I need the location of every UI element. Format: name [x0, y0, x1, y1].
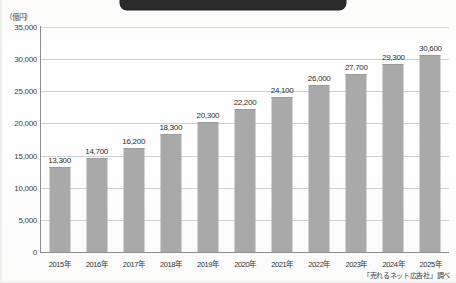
bar-value-label: 29,300 — [382, 53, 405, 62]
bar-value-label: 16,200 — [122, 137, 145, 146]
bar-group: 16,2002017年 — [115, 27, 152, 252]
bar-value-label: 20,300 — [197, 111, 220, 120]
bar[interactable] — [234, 109, 255, 252]
bar[interactable] — [272, 97, 293, 252]
y-axis-tick-label: 25,000 — [14, 87, 37, 96]
bar-group: 20,3002019年 — [189, 27, 226, 252]
x-axis-tick-label: 2023年 — [345, 258, 367, 269]
x-axis-tick-label: 2015年 — [49, 258, 71, 269]
bar-value-label: 22,200 — [234, 98, 257, 107]
bar-value-label: 26,000 — [308, 74, 331, 83]
bar-group: 27,7002023年 — [338, 27, 375, 252]
y-axis-tick-label: 30,000 — [14, 55, 37, 64]
source-note: 「売れるネット広告社」調べ — [363, 270, 450, 280]
gridline — [41, 252, 449, 253]
x-axis-tick-label: 2025年 — [420, 258, 442, 269]
bar-group: 22,2002020年 — [226, 27, 263, 252]
y-axis-tick-labels: 05,00010,00015,00020,00025,00030,00035,0… — [0, 0, 37, 283]
bar-group: 18,3002018年 — [152, 27, 189, 252]
y-axis-tick-label: 0 — [33, 248, 37, 257]
y-axis-tick-label: 20,000 — [14, 119, 37, 128]
y-axis-tick-label: 15,000 — [14, 151, 37, 160]
x-axis-tick-label: 2020年 — [234, 258, 256, 269]
bar-group: 30,6002025年 — [412, 27, 449, 252]
bar[interactable] — [197, 122, 218, 253]
bar-value-label: 27,700 — [345, 63, 368, 72]
bar[interactable] — [86, 158, 107, 253]
bar[interactable] — [420, 55, 441, 252]
bar-group: 29,3002024年 — [375, 27, 412, 252]
bar-group: 13,3002015年 — [41, 27, 78, 252]
x-axis-tick-label: 2019年 — [197, 258, 219, 269]
plot-area: 13,3002015年14,7002016年16,2002017年18,3002… — [41, 27, 449, 252]
y-axis-tick-label: 35,000 — [14, 23, 37, 32]
y-axis-tick-label: 10,000 — [14, 183, 37, 192]
x-axis-tick-label: 2024年 — [383, 258, 405, 269]
bar[interactable] — [383, 64, 404, 252]
bar[interactable] — [309, 85, 330, 252]
x-axis-tick-label: 2018年 — [160, 258, 182, 269]
bar-value-label: 24,100 — [271, 86, 294, 95]
bar-value-label: 18,300 — [159, 123, 182, 132]
bar[interactable] — [123, 148, 144, 252]
bar-value-label: 30,600 — [419, 44, 442, 53]
bar-value-label: 13,300 — [48, 156, 71, 165]
y-axis-tick-label: 5,000 — [18, 215, 37, 224]
bar-group: 24,1002021年 — [264, 27, 301, 252]
chart-screenshot: （億円） 05,00010,00015,00020,00025,00030,00… — [0, 0, 456, 283]
bar[interactable] — [49, 167, 70, 253]
bar[interactable] — [160, 134, 181, 252]
title-banner — [120, 0, 346, 10]
bar-value-label: 14,700 — [85, 147, 108, 156]
x-axis-tick-label: 2022年 — [308, 258, 330, 269]
x-axis-tick-label: 2016年 — [86, 258, 108, 269]
x-axis-tick-label: 2017年 — [123, 258, 145, 269]
bar-group: 14,7002016年 — [78, 27, 115, 252]
x-axis-tick-label: 2021年 — [271, 258, 293, 269]
bar[interactable] — [346, 74, 367, 252]
bar-group: 26,0002022年 — [301, 27, 338, 252]
